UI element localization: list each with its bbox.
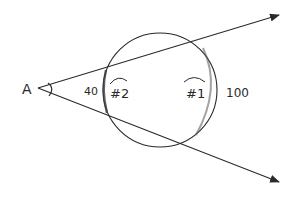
upper-ray bbox=[38, 15, 279, 88]
near-eye-arc-icon bbox=[110, 78, 127, 84]
far-eye-arc-icon bbox=[184, 78, 205, 83]
far-distance-label: 100 bbox=[226, 86, 249, 100]
near-distance-label: 40 bbox=[84, 85, 98, 98]
lower-ray bbox=[38, 88, 279, 182]
angle-circle-diagram: A 40 100 #2 #1 bbox=[0, 0, 308, 215]
left-shading bbox=[104, 70, 107, 113]
far-point-label: #1 bbox=[186, 86, 205, 101]
vertex-label: A bbox=[22, 81, 32, 97]
near-point-label: #2 bbox=[110, 86, 129, 101]
